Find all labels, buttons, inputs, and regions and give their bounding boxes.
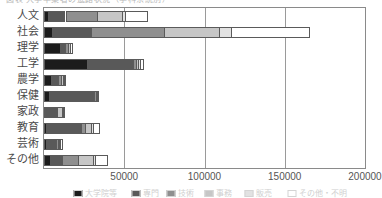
chart-title-text: 図表 大学卒業者の進路状況（学科系統別）	[6, 0, 246, 4]
legend-swatch	[167, 190, 176, 197]
category-label-5: 保健	[17, 90, 39, 101]
bar-segment	[78, 155, 93, 166]
bar-segment	[87, 59, 133, 70]
chart-legend: 大学院等専門技術事務販売その他・不明	[0, 189, 381, 198]
category-label-2: 理学	[17, 42, 39, 53]
x-axis-tick-labels: 50000100000150000200000	[0, 171, 381, 185]
bar-row	[44, 59, 365, 70]
bar-segment	[51, 75, 58, 86]
legend-label: 大学院等	[85, 189, 117, 198]
legend-item: 技術	[167, 189, 194, 198]
legend-label: 事務	[216, 189, 232, 198]
bar-segment	[62, 155, 78, 166]
bar-segment	[64, 75, 66, 86]
bar-segment	[219, 27, 231, 38]
bar-row	[44, 11, 365, 22]
bar-row	[44, 91, 365, 102]
bar-row	[44, 43, 365, 54]
bar-segment	[48, 11, 66, 22]
bar-segment	[91, 27, 164, 38]
bar-segment	[52, 27, 91, 38]
x-tick-label-50000: 50000	[110, 171, 138, 183]
bar-segment	[63, 107, 65, 118]
legend-item: 事務	[205, 189, 232, 198]
bar-segment	[97, 11, 121, 22]
legend-item: 大学院等	[74, 189, 117, 198]
x-tick-label-100000: 100000	[188, 171, 221, 183]
legend-label: 販売	[256, 189, 272, 198]
category-label-6: 家政	[17, 106, 39, 117]
bar-row	[44, 155, 365, 166]
bar-segment	[50, 155, 63, 166]
bar-row	[44, 123, 365, 134]
bar-segment	[231, 27, 310, 38]
bar-row	[44, 107, 365, 118]
plot-area	[43, 7, 366, 169]
bar-segment	[70, 43, 72, 54]
bar-segment	[44, 43, 60, 54]
legend-label: 専門	[143, 189, 159, 198]
bar-segment	[97, 91, 99, 102]
bar-row	[44, 75, 365, 86]
bar-segment	[60, 139, 63, 150]
bar-segment	[44, 59, 87, 70]
bar-segment	[66, 11, 98, 22]
bar-segment	[140, 59, 144, 70]
category-label-1: 社会	[17, 26, 39, 37]
legend-item: その他・不明	[288, 189, 347, 198]
bar-segment	[46, 139, 56, 150]
chart-title: 図表 大学卒業者の進路状況（学科系統別）	[6, 0, 246, 7]
bar-segment	[125, 11, 148, 22]
legend-label: その他・不明	[299, 189, 347, 198]
category-axis-labels: 人文社会理学工学農学保健家政教育芸術その他	[0, 7, 42, 169]
category-label-4: 農学	[17, 74, 39, 85]
x-tick-label-150000: 150000	[268, 171, 301, 183]
bar-segment	[93, 123, 100, 134]
x-tick-label-200000: 200000	[348, 171, 381, 183]
legend-swatch	[245, 190, 254, 197]
legend-label: 技術	[178, 189, 194, 198]
bar-segment	[46, 123, 81, 134]
legend-swatch	[74, 190, 83, 197]
legend-swatch	[288, 190, 297, 197]
category-label-7: 教育	[17, 122, 39, 133]
bar-segment	[164, 27, 220, 38]
category-label-3: 工学	[17, 58, 39, 69]
bar-segment	[95, 155, 108, 166]
bar-segment	[45, 107, 56, 118]
category-label-9: その他	[6, 154, 39, 165]
legend-item: 販売	[245, 189, 272, 198]
legend-swatch	[132, 190, 141, 197]
bar-segment	[44, 75, 51, 86]
bar-row	[44, 27, 365, 38]
legend-swatch	[205, 190, 214, 197]
category-label-8: 芸術	[17, 138, 39, 149]
bar-segment	[44, 27, 52, 38]
legend-item: 専門	[132, 189, 159, 198]
bar-segment	[49, 91, 95, 102]
bar-row	[44, 139, 365, 150]
category-label-0: 人文	[17, 10, 39, 21]
